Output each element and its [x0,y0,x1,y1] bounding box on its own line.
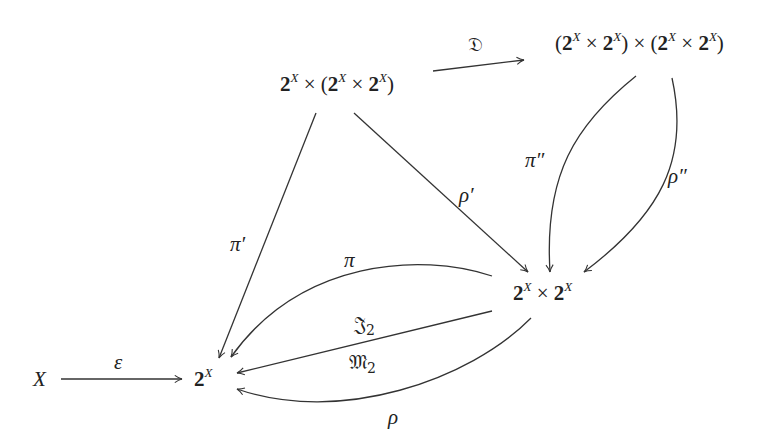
node-powerset-times-pair: 2X × (2X × 2X) [280,74,394,95]
base-two: 2 [328,72,339,96]
exponent-X: X [573,29,581,44]
subscript-2: 2 [366,322,375,338]
node-X-text: X [33,367,46,391]
exponent-X: X [564,279,572,294]
exponent-X: X [291,70,299,85]
exponent-X: X [379,70,387,85]
subscript-2: 2 [367,360,376,376]
left-paren: ( [321,72,328,96]
label-pi-prime: π′ [230,234,245,255]
pi-prime-text: π′ [230,232,245,256]
commutative-diagram: X 2X 2X × 2X 2X × (2X × 2X) (2X × 2X) × … [0,0,784,443]
node-pair-times-pair: (2X × 2X) × (2X × 2X) [555,33,724,54]
exponent-X: X [668,29,676,44]
pi-text: π [344,248,355,272]
left-paren: ( [651,31,658,55]
base-two: 2 [194,367,205,391]
node-powerset: 2X [194,369,212,390]
label-rho-prime: ρ′ [459,185,474,206]
arrow-rho [237,318,531,402]
times-sign: × [352,72,364,96]
epsilon-text: ε [114,350,122,374]
label-M2: 𝔐2 [349,352,376,372]
exponent-X: X [524,279,532,294]
arrow-pi-double-prime [549,76,636,272]
right-paren: ) [621,31,628,55]
right-paren: ) [717,31,724,55]
D-text: 𝔇 [468,32,483,56]
times-sign: × [634,31,646,55]
exponent-X: X [205,365,213,380]
arrow-rho-prime [354,113,528,272]
base-two: 2 [554,281,565,305]
M-text: 𝔐 [349,350,367,374]
left-paren: ( [555,31,562,55]
diagram-arrows [0,0,784,443]
label-rho-double-prime: ρ″ [668,166,687,187]
rho-text: ρ [388,405,398,429]
node-X: X [33,369,46,390]
exponent-X: X [338,70,346,85]
label-pi: π [344,250,355,271]
times-sign: × [537,281,549,305]
arrow-rho-double-prime [584,78,677,272]
arrow-D [433,60,524,71]
label-J2: 𝔍2 [354,314,375,334]
times-sign: × [304,72,316,96]
label-rho: ρ [388,407,398,428]
base-two: 2 [369,72,380,96]
times-sign: × [681,31,693,55]
J-text: 𝔍 [354,312,366,336]
label-D: 𝔇 [468,34,483,54]
base-two: 2 [658,31,669,55]
base-two: 2 [603,31,614,55]
rho-double-prime-text: ρ″ [668,164,687,188]
base-two: 2 [280,72,291,96]
base-two: 2 [562,31,573,55]
exponent-X: X [709,29,717,44]
label-epsilon: ε [114,352,122,373]
label-pi-double-prime: π″ [525,150,544,171]
times-sign: × [586,31,598,55]
base-two: 2 [698,31,709,55]
node-powerset-pair: 2X × 2X [513,283,572,304]
rho-prime-text: ρ′ [459,183,474,207]
base-two: 2 [513,281,524,305]
pi-double-prime-text: π″ [525,148,544,172]
right-paren: ) [387,72,394,96]
